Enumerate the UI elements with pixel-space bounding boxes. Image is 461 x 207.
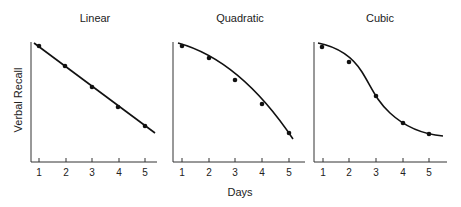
svg-text:2: 2: [206, 167, 212, 178]
panel-title-cubic: Cubic: [366, 12, 395, 24]
svg-text:4: 4: [400, 167, 406, 178]
fit-curve: [178, 43, 293, 139]
x-ticks: [39, 158, 145, 162]
panel-linear: Linear 1 2 3 4 5: [31, 12, 157, 178]
x-ticks: [182, 158, 289, 162]
svg-text:1: 1: [179, 167, 185, 178]
svg-text:3: 3: [373, 167, 379, 178]
svg-text:4: 4: [116, 167, 122, 178]
tick-labels: 1 2 3 4 5: [36, 167, 148, 178]
tick-labels: 1 2 3 4 5: [179, 167, 292, 178]
x-axis-label: Days: [227, 186, 253, 198]
chart-figure: Verbal Recall Days Linear 1 2 3 4 5 Quad…: [0, 0, 461, 207]
svg-text:3: 3: [89, 167, 95, 178]
svg-text:5: 5: [142, 167, 148, 178]
svg-text:2: 2: [63, 167, 69, 178]
tick-labels: 1 2 3 4 5: [320, 167, 432, 178]
x-ticks: [323, 158, 429, 162]
data-points: [180, 44, 292, 136]
panel-title-quadratic: Quadratic: [216, 12, 264, 24]
svg-text:4: 4: [259, 167, 265, 178]
svg-text:5: 5: [426, 167, 432, 178]
svg-text:1: 1: [320, 167, 326, 178]
panel-cubic: Cubic 1 2 3 4 5: [314, 12, 447, 178]
svg-text:3: 3: [232, 167, 238, 178]
fit-curve: [318, 43, 443, 136]
svg-text:1: 1: [36, 167, 42, 178]
svg-text:2: 2: [346, 167, 352, 178]
y-axis-label: Verbal Recall: [12, 68, 24, 133]
panel-quadratic: Quadratic 1 2 3 4 5: [173, 12, 305, 178]
data-points: [320, 45, 432, 137]
panel-title-linear: Linear: [80, 12, 111, 24]
fit-line: [34, 43, 155, 133]
svg-text:5: 5: [286, 167, 292, 178]
